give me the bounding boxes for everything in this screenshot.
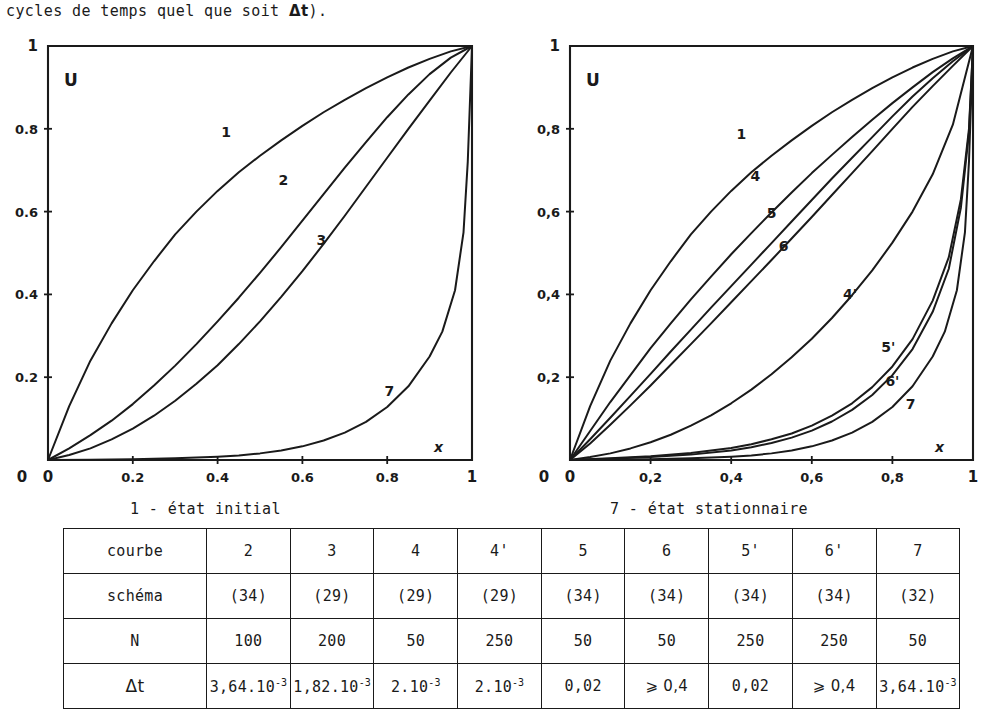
- table-row: N10020050250505025025050: [64, 619, 960, 664]
- y-tick-label: 0,8: [537, 122, 560, 137]
- table-cell: 2.10-3: [374, 664, 458, 709]
- y-tick-label: 0.6: [15, 205, 38, 220]
- caption-stationary-state: 7 - état stationnaire: [610, 500, 808, 518]
- curve-label-4-prime: 4': [843, 286, 857, 302]
- cell-mantissa: 2.10: [475, 678, 512, 696]
- curve-label-2: 2: [278, 172, 288, 188]
- table-cell: 4': [458, 529, 542, 574]
- x-tick-label: 0,2: [639, 470, 662, 485]
- table-cell: 0,02: [541, 664, 625, 709]
- table-cell: (34): [541, 574, 625, 619]
- intro-text-before: cycles de temps quel que soit: [6, 2, 289, 20]
- x-tick-label: 0: [565, 468, 575, 486]
- curve-1: [48, 46, 472, 460]
- table-cell: 200: [290, 619, 374, 664]
- table-cell: (34): [207, 574, 291, 619]
- table-cell: 50: [374, 619, 458, 664]
- intro-text: cycles de temps quel que soit Δt).: [6, 2, 327, 20]
- table-cell: 3: [290, 529, 374, 574]
- y-tick-label: 0: [17, 468, 27, 486]
- x-tick-label: 0.8: [376, 470, 399, 485]
- y-tick-label: 0: [539, 468, 549, 486]
- cell-mantissa: ⩾ 0,4: [813, 677, 856, 695]
- curve-label-7: 7: [906, 396, 916, 412]
- x-tick-label: 0: [43, 468, 53, 486]
- table-cell: 50: [625, 619, 709, 664]
- table-cell: 50: [541, 619, 625, 664]
- table-cell: 7: [876, 529, 960, 574]
- table-cell: 5: [541, 529, 625, 574]
- figure-captions: 1 - état initial 7 - état stationnaire: [0, 500, 995, 524]
- table-cell: (29): [290, 574, 374, 619]
- table-row-header: N: [64, 619, 207, 664]
- y-tick-label: 0.2: [15, 370, 38, 385]
- curve-label-1: 1: [221, 124, 231, 140]
- x-tick-label: 1: [968, 468, 978, 486]
- cell-mantissa: 0,02: [564, 677, 601, 695]
- table-cell: 5': [709, 529, 793, 574]
- cell-mantissa: 2.10: [391, 678, 428, 696]
- table-cell: (34): [709, 574, 793, 619]
- y-tick-label: 0,4: [537, 287, 560, 302]
- table-row: Δt3,64.10-31,82.10-32.10-32.10-30,02⩾ 0,…: [64, 664, 960, 709]
- curve-label-4: 4: [751, 168, 761, 184]
- table-row: schéma(34)(29)(29)(29)(34)(34)(34)(34)(3…: [64, 574, 960, 619]
- table-cell: ⩾ 0,4: [792, 664, 876, 709]
- curve-label-1: 1: [736, 126, 746, 142]
- y-tick-label: 1: [550, 37, 560, 55]
- y-axis-label: U: [586, 70, 600, 90]
- curve-label-6-prime: 6': [885, 373, 899, 389]
- table-cell: (34): [625, 574, 709, 619]
- cell-mantissa: 0,02: [732, 677, 769, 695]
- y-tick-label: 0,6: [537, 205, 560, 220]
- cell-exponent: -3: [359, 677, 371, 688]
- curve-label-5: 5: [767, 205, 777, 221]
- table-cell: 250: [458, 619, 542, 664]
- x-tick-label: 0.4: [206, 470, 229, 485]
- x-tick-label: 0.2: [121, 470, 144, 485]
- table-cell: ⩾ 0,4: [625, 664, 709, 709]
- right-plot-figure: 00,20,40,60,8100,20,40,60,81Ux14564'5'6'…: [525, 30, 995, 500]
- table-cell: (29): [458, 574, 542, 619]
- delta-t-symbol: Δt: [126, 676, 145, 696]
- table-cell: 4: [374, 529, 458, 574]
- table-cell: (34): [792, 574, 876, 619]
- y-tick-label: 0.8: [15, 122, 38, 137]
- table-row-header: Δt: [64, 664, 207, 709]
- table-cell: 0,02: [709, 664, 793, 709]
- y-axis-label: U: [64, 70, 78, 90]
- table-cell: (32): [876, 574, 960, 619]
- cell-mantissa: 3,64.10: [210, 678, 275, 696]
- cell-mantissa: ⩾ 0,4: [645, 677, 688, 695]
- curve-label-5-prime: 5': [881, 339, 895, 355]
- table-cell: 3,64.10-3: [207, 664, 291, 709]
- table-row-header: schéma: [64, 574, 207, 619]
- cell-exponent: -3: [944, 677, 956, 688]
- table-cell: 250: [709, 619, 793, 664]
- curve-label-7: 7: [384, 383, 394, 399]
- x-axis-label: x: [433, 439, 444, 455]
- x-tick-label: 0.6: [291, 470, 314, 485]
- cell-exponent: -3: [512, 677, 524, 688]
- curve-label-6: 6: [779, 238, 789, 254]
- y-tick-label: 0.4: [15, 287, 38, 302]
- table-cell: 6: [625, 529, 709, 574]
- curve-3: [48, 46, 472, 460]
- x-tick-label: 1: [467, 468, 477, 486]
- right-plot-svg: 00,20,40,60,8100,20,40,60,81Ux14564'5'6'…: [525, 30, 995, 500]
- y-tick-label: 0,2: [537, 370, 560, 385]
- table-cell: 250: [792, 619, 876, 664]
- y-tick-label: 1: [28, 37, 38, 55]
- x-tick-label: 0,6: [800, 470, 823, 485]
- x-axis-label: x: [934, 439, 945, 455]
- table-cell: 6': [792, 529, 876, 574]
- plot-frame: [48, 46, 472, 460]
- cell-mantissa: 1,82.10: [293, 678, 358, 696]
- delta-t-symbol: Δt: [289, 2, 309, 20]
- curve-7: [48, 46, 472, 460]
- curve-2: [48, 46, 472, 460]
- curve-label-3: 3: [317, 232, 327, 248]
- caption-initial-state: 1 - état initial: [130, 500, 281, 518]
- x-tick-label: 0,8: [881, 470, 904, 485]
- table-cell: 2.10-3: [458, 664, 542, 709]
